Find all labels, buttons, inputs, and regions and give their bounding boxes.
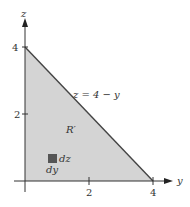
- dy-label: dy: [46, 164, 58, 175]
- z-axis-arrow-icon: [22, 18, 28, 27]
- y-tick-label-4: 4: [150, 187, 156, 198]
- z-tick-label-2: 2: [14, 109, 20, 120]
- y-axis-label: y: [176, 175, 183, 186]
- z-axis-label: z: [20, 8, 27, 19]
- z-tick-label-4: 4: [12, 42, 18, 53]
- area-element: [48, 154, 57, 163]
- boundary-label: z = 4 − y: [72, 89, 120, 100]
- dz-label: dz: [59, 153, 71, 164]
- y-tick-label-2: 2: [86, 187, 92, 198]
- triangular-region-diagram: z y 4 2 2 4 z = 4 − y R′ dz dy: [0, 0, 190, 207]
- y-axis-arrow-icon: [164, 178, 173, 184]
- region-label: R′: [65, 124, 77, 135]
